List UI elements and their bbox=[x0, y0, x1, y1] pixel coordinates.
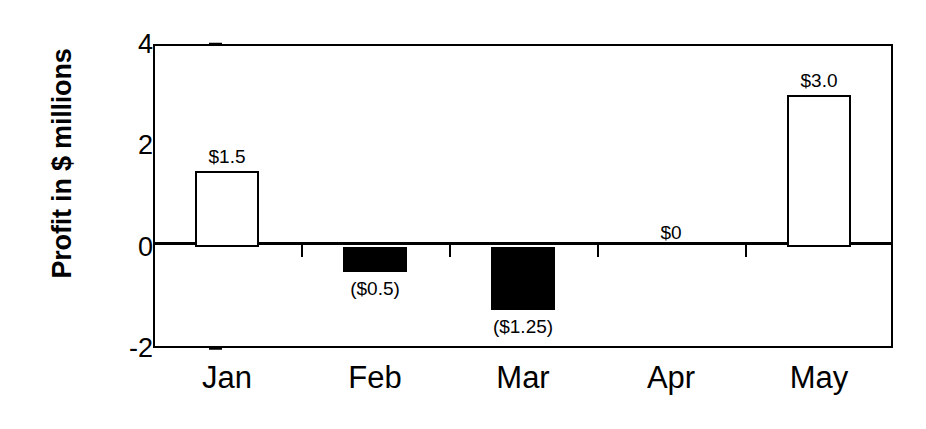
value-label-apr: $0 bbox=[660, 223, 681, 242]
y-tick-label: 0 bbox=[93, 233, 153, 260]
x-tick-label-may: May bbox=[790, 362, 849, 393]
bar-feb[interactable] bbox=[343, 247, 407, 272]
x-tick-mark bbox=[745, 244, 747, 257]
y-tick-label: 4 bbox=[93, 31, 153, 58]
value-label-feb: ($0.5) bbox=[350, 279, 400, 298]
x-tick-mark bbox=[301, 244, 303, 257]
value-label-may: $3.0 bbox=[801, 71, 838, 90]
bar-mar[interactable] bbox=[491, 247, 555, 310]
bar-jan[interactable] bbox=[195, 171, 259, 247]
x-tick-label-mar: Mar bbox=[496, 362, 549, 393]
bar-may[interactable] bbox=[787, 95, 851, 247]
x-tick-label-jan: Jan bbox=[202, 362, 252, 393]
bar-chart: Profit in $ millions 420-2 $1.5($0.5)($1… bbox=[0, 0, 926, 429]
y-tick-label: 2 bbox=[93, 132, 153, 159]
x-tick-label-apr: Apr bbox=[647, 362, 695, 393]
value-label-mar: ($1.25) bbox=[493, 317, 553, 336]
zero-baseline bbox=[153, 242, 893, 245]
value-label-jan: $1.5 bbox=[209, 147, 246, 166]
y-axis: 420-2 bbox=[68, 0, 153, 429]
x-tick-mark bbox=[449, 244, 451, 257]
x-tick-mark bbox=[597, 244, 599, 257]
x-tick-label-feb: Feb bbox=[348, 362, 401, 393]
y-tick-label: -2 bbox=[93, 335, 153, 362]
